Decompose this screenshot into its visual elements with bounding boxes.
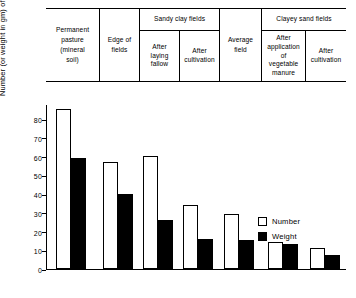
header-col-edge-of-fields: Edge of fields <box>100 9 140 81</box>
bar-number <box>143 156 158 269</box>
header-subrow-sandy-clay-fields: Afterlayingfallow Aftercultivation <box>140 31 219 81</box>
line-1: Average <box>228 36 253 43</box>
header-sub-text: Aftercultivation <box>184 47 214 65</box>
line-2: pasture <box>61 36 84 43</box>
bar-number <box>224 214 239 268</box>
header-subrow-clayey-sand-fields: Afterapplicationofvegetablemanure Afterc… <box>262 31 346 81</box>
bar-number <box>103 162 118 269</box>
bar-weight <box>118 194 133 269</box>
y-tick-label: 30 <box>20 210 42 217</box>
line-2: field <box>234 46 247 53</box>
header-sub-after-application-of-vegetable-manure: Afterapplicationofvegetablemanure <box>262 31 306 81</box>
line-1: Edge of <box>108 36 131 43</box>
header-title-clayey-sand-fields: Clayey sand fields <box>262 9 346 31</box>
y-tick-label: 20 <box>20 229 42 236</box>
bar-number <box>310 248 325 269</box>
line-4: soil) <box>66 56 79 63</box>
line-2: fields <box>112 46 128 53</box>
header-col-average-field: Average field <box>220 9 262 81</box>
bar-weight <box>198 239 213 269</box>
y-tick-label: 10 <box>20 248 42 255</box>
y-tick-label: 0 <box>20 267 42 274</box>
legend-item-weight: Weight <box>258 232 300 241</box>
header-sub-text: Afterapplicationofvegetablemanure <box>267 34 300 78</box>
bar-weight <box>71 158 86 269</box>
line-3: (mineral <box>60 46 85 53</box>
header-text-average-field: Average field <box>228 35 253 55</box>
header-sub-after-laying-fallow: Afterlayingfallow <box>140 31 180 81</box>
bar-weight <box>239 240 254 268</box>
bar-number <box>56 109 71 268</box>
legend-item-number: Number <box>258 217 300 226</box>
header-title-sandy-clay-fields: Sandy clay fields <box>140 9 219 31</box>
header-col-clayey-sand-fields: Clayey sand fields Afterapplicationofveg… <box>262 9 346 81</box>
header-col-permanent-pasture: Permanent pasture (mineral soil) <box>46 9 100 81</box>
y-tick-label: 70 <box>20 135 42 142</box>
category-header-table: Permanent pasture (mineral soil) Edge of… <box>46 8 346 82</box>
plot-area: 01020304050607080 Number Weight <box>46 105 346 270</box>
header-label-edge-of-fields: Edge of fields <box>100 9 139 81</box>
bar-series-container <box>46 105 346 269</box>
header-col-sandy-clay-fields: Sandy clay fields Afterlayingfallow Afte… <box>140 9 220 81</box>
header-text-permanent-pasture: Permanent pasture (mineral soil) <box>56 25 89 65</box>
bar-weight <box>325 255 340 268</box>
y-tick-label: 80 <box>20 117 42 124</box>
line-1: Permanent <box>56 26 89 33</box>
legend: Number Weight <box>258 217 300 247</box>
header-label-average-field: Average field <box>220 9 261 81</box>
bar-weight <box>283 244 298 268</box>
header-sub-after-cultivation-clayey: Aftercultivation <box>306 31 346 81</box>
header-sub-text: Aftercultivation <box>311 47 341 65</box>
y-tick-label: 40 <box>20 192 42 199</box>
y-tick-label: 60 <box>20 154 42 161</box>
legend-label-number: Number <box>272 218 300 226</box>
chart-figure: Permanent pasture (mineral soil) Edge of… <box>0 0 356 298</box>
header-text-edge-of-fields: Edge of fields <box>108 35 131 55</box>
header-label-permanent-pasture: Permanent pasture (mineral soil) <box>46 9 99 81</box>
header-sub-after-cultivation-sandy: Aftercultivation <box>180 31 219 81</box>
y-axis-title-prefix: Number (or weight in gm) of earthworms p… <box>0 0 7 96</box>
legend-swatch-number-icon <box>258 217 267 226</box>
y-tick-mark <box>42 270 46 271</box>
y-axis-title: Number (or weight in gm) of earthworms p… <box>0 0 7 96</box>
bar-number <box>183 205 198 269</box>
header-sub-text: Afterlayingfallow <box>151 43 169 70</box>
bar-weight <box>158 220 173 269</box>
legend-label-weight: Weight <box>272 233 297 241</box>
legend-swatch-weight-icon <box>258 232 267 241</box>
y-tick-label: 50 <box>20 173 42 180</box>
